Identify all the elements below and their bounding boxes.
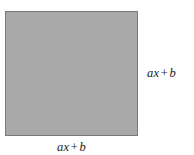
square-side-label-bottom: ax+b <box>5 141 138 154</box>
label-right-term-b: b <box>169 66 175 80</box>
label-right-term-ax: ax <box>147 66 159 80</box>
shaded-square <box>5 11 138 136</box>
figure-canvas: ax+b ax+b <box>0 0 194 155</box>
label-bottom-operator: + <box>69 140 79 154</box>
label-bottom-term-b: b <box>80 140 86 154</box>
label-right-operator: + <box>159 66 169 80</box>
square-side-label-right: ax+b <box>147 67 176 80</box>
label-bottom-term-ax: ax <box>57 140 69 154</box>
